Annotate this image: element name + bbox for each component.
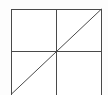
- geometric-figure: [0, 0, 108, 95]
- figure-container: [0, 0, 108, 95]
